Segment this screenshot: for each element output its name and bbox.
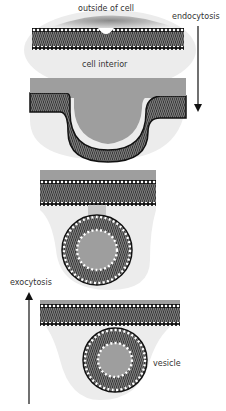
cell-interior-label: cell interior [82,60,127,69]
stage-2 [30,78,186,162]
outside-of-cell-label: outside of cell [78,4,134,13]
endocytosis-label: endocytosis [172,12,220,21]
vesicle-label: vesicle [153,359,181,368]
exocytosis-arrow [25,292,33,404]
exocytosis-label: exocytosis [10,278,52,287]
stage-3 [40,170,156,290]
endocytosis-arrow [194,26,202,112]
stage-4 [40,300,180,400]
